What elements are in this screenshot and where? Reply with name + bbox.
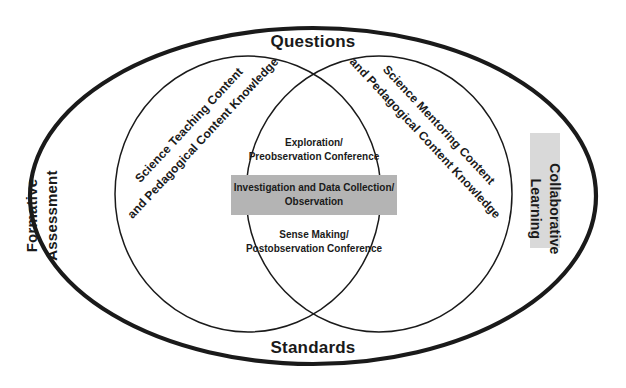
- phase-sense-line-2: Postobservation Conference: [246, 243, 382, 254]
- venn-diagram-figure: Questions Standards Formative Assessment…: [0, 0, 626, 388]
- outer-ring-label-formative-assessment: Formative Assessment: [22, 131, 61, 301]
- formative-line-1: Formative: [23, 179, 40, 253]
- phase-exploration-line-2: Preobservation Conference: [249, 151, 380, 162]
- outer-ring-label-collaborative-learning: Collaborative Learning: [526, 124, 564, 294]
- intersection-phase-list: Exploration/ Preobservation Conference I…: [231, 136, 397, 256]
- outer-ring-label-questions: Questions: [0, 31, 626, 52]
- phase-investigation-highlighted: Investigation and Data Collection/ Obser…: [231, 175, 397, 215]
- outer-ring-label-standards: Standards: [0, 337, 626, 358]
- phase-exploration-line-1: Exploration/: [285, 137, 343, 148]
- phase-sense-line-1: Sense Making/: [279, 229, 348, 240]
- formative-line-2: Assessment: [42, 170, 59, 260]
- phase-sense-making: Sense Making/ Postobservation Conference: [231, 215, 397, 256]
- phase-investigation-line-2: Observation: [285, 196, 343, 207]
- phase-investigation-line-1: Investigation and Data Collection/: [234, 182, 395, 193]
- collaborative-line-1: Collaborative: [547, 163, 563, 254]
- phase-exploration: Exploration/ Preobservation Conference: [231, 136, 397, 175]
